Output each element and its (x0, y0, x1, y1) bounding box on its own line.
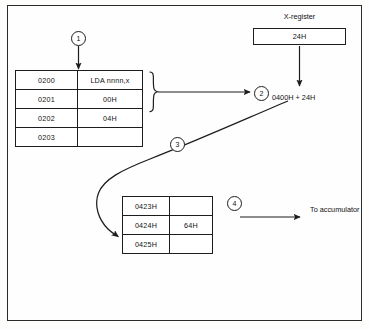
cell-address: 0202 (16, 109, 78, 127)
indexed-addressing-figure: 0200 LDA nnnn,x 0201 00H 0202 04H 0203 0… (0, 0, 369, 330)
cell-address: 0203 (16, 128, 78, 146)
connector-layer (0, 0, 369, 330)
cell-value: LDA nnnn,x (78, 71, 142, 89)
callout-marker-4: 4 (227, 196, 242, 211)
x-register-box: 24H (253, 28, 346, 45)
program-memory-table: 0200 LDA nnnn,x 0201 00H 0202 04H 0203 (15, 70, 143, 147)
cell-address: 0200 (16, 71, 78, 89)
table-row: 0423H (123, 197, 212, 216)
cell-value: 04H (78, 109, 142, 127)
table-row: 0202 04H (16, 109, 142, 128)
cell-address: 0425H (123, 235, 170, 253)
callout-marker-2: 2 (254, 86, 269, 101)
table-row: 0201 00H (16, 90, 142, 109)
table-row: 0203 (16, 128, 142, 146)
cell-address: 0423H (123, 197, 170, 215)
data-memory-table: 0423H 0424H 64H 0425H (122, 196, 213, 254)
cell-value (170, 197, 212, 215)
effective-address-label: 0400H + 24H (272, 93, 315, 102)
cell-address: 0424H (123, 216, 170, 234)
to-accumulator-label: To accumulator (310, 205, 362, 215)
callout-marker-3: 3 (170, 137, 185, 152)
cell-value: 64H (170, 216, 212, 234)
cell-value (170, 235, 212, 253)
cell-address: 0201 (16, 90, 78, 108)
x-register-value: 24H (293, 32, 306, 41)
instruction-brace (150, 72, 157, 112)
table-row: 0200 LDA nnnn,x (16, 71, 142, 90)
cell-value: 00H (78, 90, 142, 108)
cell-value (78, 128, 142, 146)
x-register-label: X-register (253, 12, 346, 21)
table-row: 0425H (123, 235, 212, 253)
callout-marker-1: 1 (71, 31, 86, 46)
table-row: 0424H 64H (123, 216, 212, 235)
